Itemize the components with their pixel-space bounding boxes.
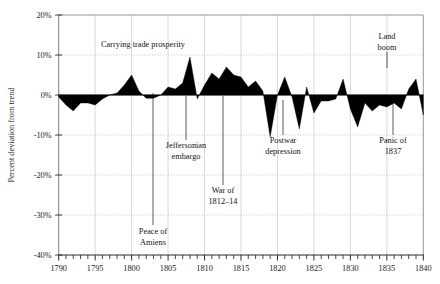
- y-tick-label--20%: -20%: [34, 171, 52, 180]
- y-tick-label-20%: 20%: [36, 11, 51, 20]
- annotation-panic-of-1837-line-1: 1837: [385, 147, 402, 156]
- annotation-panic-of-1837-line-0: Panic of: [379, 136, 407, 145]
- x-tick-label-1835: 1835: [379, 264, 396, 273]
- y-tick-label-10%: 10%: [36, 51, 51, 60]
- x-tick-label-1825: 1825: [306, 264, 323, 273]
- annotation-carrying-trade-prosperity-line-0: Carrying trade prosperity: [101, 40, 186, 49]
- y-tick-label--30%: -30%: [34, 211, 52, 220]
- annotation-peace-of-amiens-line-0: Peace of: [139, 227, 168, 236]
- annotation-postwar-depression-line-0: Postwar: [270, 136, 297, 145]
- x-tick-label-1805: 1805: [160, 264, 177, 273]
- annotation-war-of-1812-14-line-1: 1812–14: [208, 197, 238, 206]
- y-tick-label--40%: -40%: [34, 251, 52, 260]
- annotation-land-boom-line-1: boom: [378, 43, 397, 52]
- annotation-jeffersonian-embargo-line-1: embargo: [172, 152, 201, 161]
- x-tick-label-1800: 1800: [123, 264, 140, 273]
- x-tick-label-1790: 1790: [50, 264, 67, 273]
- chart-container: 20%10%0%-10%-20%-30%-40% 179017951800180…: [0, 0, 440, 284]
- y-axis-title: Percent deviation from trend: [7, 87, 16, 183]
- annotation-war-of-1812-14-line-0: War of: [212, 186, 235, 195]
- x-tick-label-1815: 1815: [233, 264, 250, 273]
- x-tick-label-1830: 1830: [342, 264, 359, 273]
- y-tick-label--10%: -10%: [34, 131, 52, 140]
- chart-background: [0, 0, 440, 284]
- x-tick-label-1820: 1820: [269, 264, 286, 273]
- annotation-jeffersonian-embargo-line-0: Jeffersonian: [166, 141, 207, 150]
- deviation-from-trend-chart: 20%10%0%-10%-20%-30%-40% 179017951800180…: [0, 0, 440, 284]
- annotation-peace-of-amiens-line-1: Amiens: [140, 238, 166, 247]
- x-tick-label-1840: 1840: [415, 264, 432, 273]
- x-tick-label-1810: 1810: [196, 264, 213, 273]
- annotation-land-boom-line-0: Land: [378, 32, 396, 41]
- x-tick-label-1795: 1795: [87, 264, 104, 273]
- y-tick-label-0%: 0%: [41, 91, 52, 100]
- annotation-postwar-depression-line-1: depression: [265, 147, 301, 156]
